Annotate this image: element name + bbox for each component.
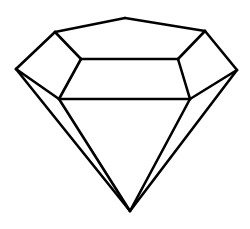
edge-upper_left-apex — [55, 18, 125, 32]
edge-upper_left-table_left — [55, 32, 81, 59]
edge-upper_right-far_right — [205, 31, 237, 70]
edge-far_right-culet — [130, 70, 237, 211]
edge-far_right-girdle_right — [190, 70, 237, 99]
edge-far_left-upper_left — [16, 32, 55, 69]
diamond-illustration — [0, 0, 250, 229]
edge-far_left-culet — [16, 69, 130, 211]
diamond-icon — [0, 0, 250, 229]
edge-girdle_left-culet — [59, 99, 130, 211]
edge-apex-upper_right — [125, 18, 205, 31]
edge-table_right-girdle_right — [178, 59, 190, 99]
edge-girdle_right-culet — [130, 99, 190, 211]
edge-upper_right-table_right — [178, 31, 205, 59]
edge-table_left-girdle_left — [59, 59, 81, 99]
